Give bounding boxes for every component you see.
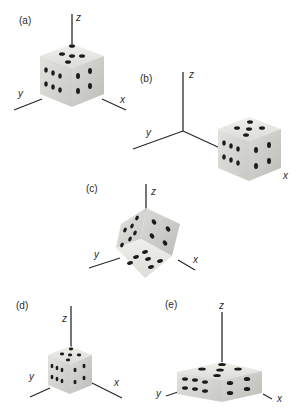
y-axis-e — [166, 392, 178, 396]
axis-label-x-d: x — [114, 378, 119, 388]
axis-label-y-a: y — [18, 89, 23, 99]
axis-label-y-e: y — [156, 389, 161, 399]
panel-label-d: (d) — [16, 301, 28, 311]
axis-label-x-c: x — [193, 255, 198, 265]
y-axis-a — [14, 99, 42, 110]
axis-label-z-c: z — [151, 187, 156, 197]
panel-e — [166, 312, 272, 402]
panel-label-a: (a) — [19, 16, 31, 26]
panel-d — [30, 306, 122, 398]
y-axis-b — [133, 131, 183, 149]
axis-label-y-c: y — [94, 250, 99, 260]
die-d — [48, 346, 92, 394]
x-axis-e — [263, 394, 272, 399]
figure-canvas — [0, 0, 304, 418]
panel-label-b: (b) — [140, 74, 152, 84]
die-c — [116, 208, 180, 278]
die-b — [218, 117, 281, 181]
axis-label-x-b: x — [283, 171, 288, 181]
x-axis-b — [183, 131, 220, 148]
panel-a — [14, 14, 126, 110]
axis-label-z-a: z — [76, 13, 81, 23]
transform-dice-figure: (a) z y x (b) z y x (c) z y x (d) z y x … — [0, 0, 304, 418]
panel-label-e: (e) — [165, 300, 177, 310]
axis-label-z-b: z — [189, 70, 194, 80]
panel-b — [133, 72, 281, 181]
axis-label-z-e: z — [219, 301, 224, 311]
panel-c — [89, 184, 195, 278]
die-a — [40, 44, 104, 107]
die-e — [177, 362, 262, 402]
axis-label-y-d: y — [29, 372, 34, 382]
axis-label-x-e: x — [277, 394, 282, 404]
axis-label-y-b: y — [146, 128, 151, 138]
panel-label-c: (c) — [86, 184, 98, 194]
axis-label-z-d: z — [62, 314, 67, 324]
axis-label-x-a: x — [120, 95, 125, 105]
y-axis-d — [30, 388, 50, 397]
